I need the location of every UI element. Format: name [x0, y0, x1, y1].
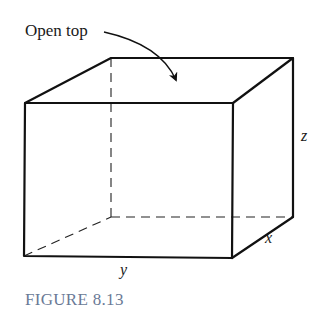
top-rim: [25, 58, 293, 103]
annotation-arrow: [104, 32, 176, 80]
edge-bottom-right-diagonal: [232, 217, 293, 258]
label-z: z: [300, 127, 308, 144]
label-y: y: [118, 261, 128, 279]
open-box-diagram: Open top z x y FIGURE 8.13: [0, 0, 325, 318]
visible-edges: [24, 58, 293, 258]
label-x: x: [264, 229, 272, 246]
annotation-open-top: Open top: [25, 21, 88, 40]
figure-caption: FIGURE 8.13: [25, 290, 124, 309]
hidden-edge-bottom-diagonal: [24, 217, 111, 256]
front-face: [24, 103, 233, 258]
